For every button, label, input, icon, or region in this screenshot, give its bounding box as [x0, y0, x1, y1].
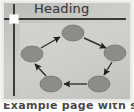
slide-thumbnail: Heading [0, 0, 134, 112]
diagram-nodes [21, 25, 126, 92]
diagram-node[interactable] [21, 46, 43, 62]
selection-handle[interactable] [10, 15, 18, 23]
edge-bottom-left-to-left [35, 64, 46, 76]
edge-right-to-bottom-right [104, 62, 112, 75]
diagram-node[interactable] [62, 25, 84, 41]
page-title: Heading [34, 1, 90, 16]
caption-strip: Example page with slide [0, 103, 134, 112]
edge-top-to-right [84, 38, 106, 48]
diagram-node[interactable] [88, 76, 110, 92]
diagram-node[interactable] [40, 76, 62, 92]
caption-text: Example page with slide [3, 103, 134, 112]
diagram-node[interactable] [104, 45, 126, 61]
cycle-diagram[interactable] [18, 22, 128, 96]
horizontal-rule [4, 18, 126, 20]
edge-left-to-top [41, 37, 60, 48]
